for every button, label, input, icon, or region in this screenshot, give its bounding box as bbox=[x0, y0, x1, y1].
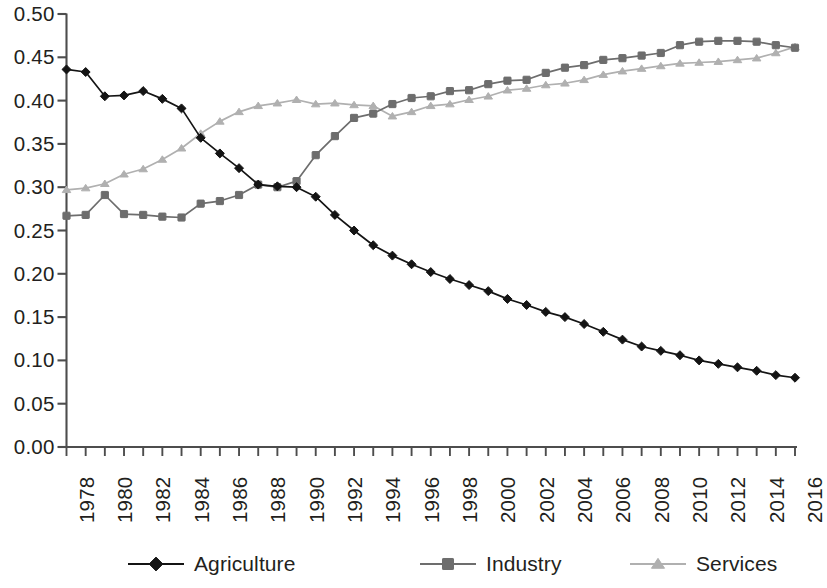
diamond-marker-icon bbox=[541, 307, 550, 316]
series-agriculture bbox=[62, 65, 799, 382]
square-marker-icon bbox=[120, 210, 127, 217]
square-marker-icon bbox=[235, 191, 242, 198]
x-axis-tick-label: 1994 bbox=[381, 477, 405, 523]
diamond-marker-icon bbox=[695, 356, 704, 365]
legend-swatch bbox=[128, 552, 184, 576]
x-axis-tick-label: 2000 bbox=[496, 477, 520, 523]
y-axis-tick-label: 0.10 bbox=[2, 348, 55, 372]
diamond-marker-icon bbox=[120, 91, 129, 100]
x-axis-tick-label: 2002 bbox=[535, 477, 559, 523]
x-axis-tick-label: 2012 bbox=[726, 477, 750, 523]
legend-item-industry[interactable]: Industry bbox=[420, 548, 562, 580]
legend-label: Agriculture bbox=[194, 552, 295, 576]
square-marker-icon bbox=[427, 93, 434, 100]
legend-label: Services bbox=[696, 552, 777, 576]
square-marker-icon bbox=[389, 100, 396, 107]
triangle-marker-icon bbox=[648, 554, 668, 574]
legend-label: Industry bbox=[486, 552, 562, 576]
square-marker-icon bbox=[82, 211, 89, 218]
y-axis-tick-label: 0.20 bbox=[2, 262, 55, 286]
legend-swatch bbox=[420, 552, 476, 576]
y-axis-tick-label: 0.50 bbox=[2, 2, 55, 26]
diamond-marker-icon bbox=[465, 281, 474, 290]
square-marker-icon bbox=[442, 558, 453, 569]
square-marker-icon bbox=[197, 200, 204, 207]
y-axis-tick-label: 0.00 bbox=[2, 435, 55, 459]
diamond-marker-icon bbox=[560, 313, 569, 322]
diamond-marker-icon bbox=[146, 554, 166, 574]
x-axis-tick-label: 2014 bbox=[765, 477, 789, 523]
square-marker-icon bbox=[485, 81, 492, 88]
x-axis-tick-label: 1978 bbox=[75, 477, 99, 523]
y-axis-tick-label: 0.25 bbox=[2, 219, 55, 243]
series-industry bbox=[63, 37, 799, 221]
square-marker-icon bbox=[140, 211, 147, 218]
legend-swatch bbox=[630, 552, 686, 576]
diamond-marker-icon bbox=[388, 251, 397, 260]
triangle-marker-icon bbox=[216, 118, 225, 124]
diamond-marker-icon bbox=[580, 320, 589, 329]
triangle-marker-icon bbox=[651, 558, 664, 568]
diamond-marker-icon bbox=[752, 366, 761, 375]
legend-item-agriculture[interactable]: Agriculture bbox=[128, 548, 295, 580]
square-marker-icon bbox=[600, 56, 607, 63]
series-line-services bbox=[67, 47, 796, 190]
diamond-marker-icon bbox=[177, 104, 186, 113]
square-marker-icon bbox=[504, 77, 511, 84]
series-services bbox=[62, 43, 799, 192]
diamond-marker-icon bbox=[426, 268, 435, 277]
square-marker-icon bbox=[676, 42, 683, 49]
square-marker-icon bbox=[791, 44, 798, 51]
triangle-marker-icon bbox=[101, 180, 110, 186]
square-marker-icon bbox=[734, 37, 741, 44]
square-marker-icon bbox=[638, 52, 645, 59]
x-axis-tick-label: 1982 bbox=[151, 477, 175, 523]
diamond-marker-icon bbox=[139, 87, 148, 96]
diamond-marker-icon bbox=[484, 287, 493, 296]
square-marker-icon bbox=[350, 114, 357, 121]
diamond-marker-icon bbox=[637, 342, 646, 351]
diamond-marker-icon bbox=[158, 94, 167, 103]
x-axis-tick-label: 1986 bbox=[228, 477, 252, 523]
diamond-marker-icon bbox=[771, 371, 780, 380]
square-marker-icon bbox=[466, 87, 473, 94]
y-axis-tick-label: 0.05 bbox=[2, 392, 55, 416]
series-line-agriculture bbox=[67, 69, 796, 377]
square-marker-icon bbox=[63, 212, 70, 219]
square-marker-icon bbox=[715, 37, 722, 44]
x-axis-tick-label: 2006 bbox=[611, 477, 635, 523]
y-axis-tick-label: 0.45 bbox=[2, 45, 55, 69]
diamond-marker-icon bbox=[618, 335, 627, 344]
x-axis-tick-label: 2008 bbox=[650, 477, 674, 523]
square-marker-icon bbox=[696, 38, 703, 45]
square-marker-icon bbox=[619, 55, 626, 62]
y-axis-tick-label: 0.15 bbox=[2, 305, 55, 329]
square-marker-icon bbox=[657, 49, 664, 56]
x-axis-tick-label: 2010 bbox=[688, 477, 712, 523]
y-axis-tick-label: 0.30 bbox=[2, 175, 55, 199]
square-marker-icon bbox=[561, 64, 568, 71]
diamond-marker-icon bbox=[599, 327, 608, 336]
diamond-marker-icon bbox=[445, 275, 454, 284]
square-marker-icon bbox=[101, 191, 108, 198]
diamond-marker-icon bbox=[62, 65, 71, 74]
square-marker-icon bbox=[370, 110, 377, 117]
triangle-marker-icon bbox=[292, 96, 301, 102]
triangle-marker-icon bbox=[139, 165, 148, 171]
square-marker-icon bbox=[542, 69, 549, 76]
square-marker-icon bbox=[159, 213, 166, 220]
x-axis-tick-label: 1988 bbox=[266, 477, 290, 523]
x-axis-tick-label: 2016 bbox=[803, 477, 827, 523]
x-axis-tick-label: 1990 bbox=[305, 477, 329, 523]
x-axis-tick-label: 1998 bbox=[458, 477, 482, 523]
diamond-marker-icon bbox=[656, 346, 665, 355]
diamond-marker-icon bbox=[733, 363, 742, 372]
x-axis-tick-label: 1992 bbox=[343, 477, 367, 523]
diamond-marker-icon bbox=[503, 294, 512, 303]
square-marker-icon bbox=[408, 94, 415, 101]
legend-item-services[interactable]: Services bbox=[630, 548, 777, 580]
square-marker-icon bbox=[216, 197, 223, 204]
square-marker-icon bbox=[772, 42, 779, 49]
diamond-marker-icon bbox=[675, 351, 684, 360]
